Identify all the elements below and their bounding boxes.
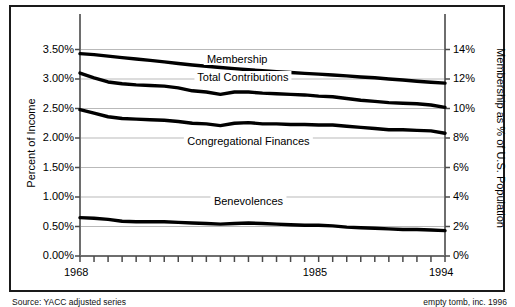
series-line <box>80 110 445 134</box>
left-axis-tick-label: 3.50% <box>18 43 74 55</box>
left-axis-tick-label: 2.00% <box>18 131 74 143</box>
right-axis-tick-label: 4% <box>453 190 493 202</box>
x-axis-tick-label: 1985 <box>303 266 327 278</box>
series-label: Congregational Finances <box>184 135 312 147</box>
right-axis-tick-label: 14% <box>453 43 493 55</box>
series-line <box>80 218 445 231</box>
x-axis-tick-label: 1968 <box>64 266 88 278</box>
left-axis-tick-label: 0.00% <box>18 249 74 261</box>
right-axis-tick-label: 2% <box>453 220 493 232</box>
series-label: Membership <box>204 53 271 65</box>
right-axis-tick-label: 6% <box>453 161 493 173</box>
series-label: Benevolences <box>211 195 286 207</box>
left-axis-tick-label: 3.00% <box>18 72 74 84</box>
right-axis-title: Membership as % of U.S. Population <box>495 43 507 233</box>
source-note-right: empty tomb, inc. 1996 <box>423 297 507 307</box>
right-axis-tick-label: 0% <box>453 249 493 261</box>
chart-frame: Percent of Income Membership as % of U.S… <box>9 5 505 292</box>
left-axis-tick-label: 2.50% <box>18 102 74 114</box>
chart-plot-svg <box>11 7 503 290</box>
figure-container: Percent of Income Membership as % of U.S… <box>0 0 515 307</box>
source-note: empty tomb, inc. 1996 Source: YACC adjus… <box>12 297 507 307</box>
left-axis-tick-label: 1.50% <box>18 161 74 173</box>
series-label: Total Contributions <box>194 71 291 83</box>
right-axis-tick-label: 10% <box>453 102 493 114</box>
left-axis-tick-label: 0.50% <box>18 220 74 232</box>
x-axis-tick-label: 1994 <box>429 266 453 278</box>
right-axis-tick-label: 8% <box>453 131 493 143</box>
left-axis-tick-label: 1.00% <box>18 190 74 202</box>
source-note-left: Source: YACC adjusted series <box>12 297 126 307</box>
right-axis-tick-label: 12% <box>453 72 493 84</box>
